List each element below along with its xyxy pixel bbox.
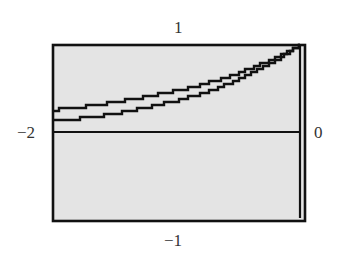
ymin-label: −1: [164, 232, 182, 249]
ymax-label: 1: [174, 19, 183, 36]
xmin-label: −2: [17, 124, 35, 141]
xmax-label: 0: [314, 124, 323, 141]
graph-window: [0, 0, 337, 259]
